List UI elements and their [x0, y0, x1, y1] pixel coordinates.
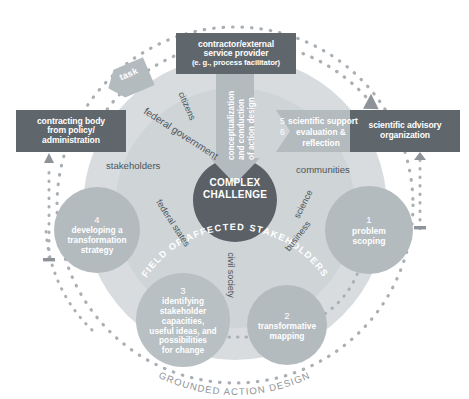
stakeholder-label-communities: communities — [296, 164, 350, 175]
phase-circle-4[interactable] — [54, 187, 140, 273]
action-design-arrow-label: conceptualization — [227, 91, 237, 160]
stakeholder-label-stakeholders: stakeholders — [106, 160, 160, 171]
complex-challenge-label: COMPLEX CHALLENGE — [192, 177, 278, 201]
arrow-line-3: of action design — [247, 97, 256, 160]
support-line-2: evaluation & — [288, 127, 354, 137]
box-line-3: administration — [42, 136, 100, 146]
feedback-arrowhead-right — [414, 152, 426, 160]
center-line-2: CHALLENGE — [203, 189, 267, 200]
arrow-line-2: and conduction — [237, 99, 246, 160]
feedback-tail-left — [43, 258, 55, 261]
feedback-arrowhead-left — [44, 153, 54, 163]
box-contractor-external-service-provider[interactable]: contractor/external service provider (e.… — [176, 33, 296, 74]
phase-circle-1[interactable] — [325, 186, 413, 274]
diagram-canvas: FIELD OF AFFECTED STAKEHOLDERS GROUNDED … — [0, 0, 469, 399]
phase-circle-2[interactable] — [247, 285, 327, 365]
action-design-arrow-label-2: and conduction — [237, 99, 247, 160]
support-line-1: scientific support — [288, 116, 354, 126]
phase-circle-3[interactable] — [136, 273, 230, 367]
feedback-tail-right — [414, 226, 426, 229]
center-line-1: COMPLEX — [210, 177, 261, 188]
support-line-3: reflection — [288, 138, 354, 148]
arrow-line-1: conceptualization — [227, 91, 236, 160]
support-step-5-number: 5 — [280, 116, 285, 126]
box-scientific-advisory-organization[interactable]: scientific advisory organization — [350, 110, 460, 152]
box-line-2: organization — [380, 131, 430, 141]
grounded-action-design-label: GROUNDED ACTION DESIGN — [157, 369, 312, 397]
box-line-3: (e. g., process facilitator) — [192, 59, 280, 68]
stakeholder-label-civil-society: civil society — [226, 252, 236, 298]
support-step-6-number: 6 — [280, 127, 285, 137]
box-contracting-body[interactable]: contracting body from policy/ administra… — [16, 110, 126, 152]
action-design-arrow-label-3: of action design — [247, 97, 257, 160]
